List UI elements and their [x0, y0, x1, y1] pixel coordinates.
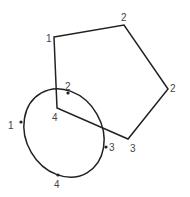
- pentagon-vertex-label-3: 2: [170, 83, 176, 94]
- pentagon-vertex-label-5: 4: [52, 112, 58, 123]
- pentagon-vertex-label-4: 3: [130, 143, 136, 154]
- diagram-canvas: 12234 1234: [0, 0, 190, 197]
- ellipse-grip-points: [19, 91, 107, 176]
- ellipse-shape[interactable]: [8, 74, 120, 192]
- ellipse-point-label-1: 1: [8, 120, 14, 131]
- pentagon-shape[interactable]: [54, 25, 168, 139]
- grip-point-1[interactable]: [19, 120, 22, 123]
- grip-point-4[interactable]: [56, 173, 59, 176]
- pentagon-vertex-label-2: 2: [121, 12, 127, 23]
- ellipse-point-label-3: 3: [109, 142, 115, 153]
- ellipse-point-label-2: 2: [65, 81, 71, 92]
- grip-point-3[interactable]: [104, 145, 107, 148]
- pentagon-vertex-label-1: 1: [46, 33, 52, 44]
- ellipse-point-label-4: 4: [54, 179, 60, 190]
